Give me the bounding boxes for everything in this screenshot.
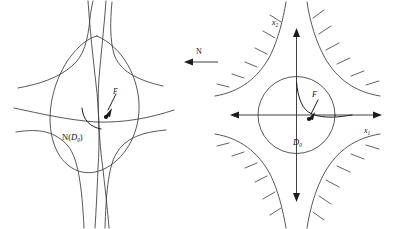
hatch-ul-3 (255, 48, 267, 54)
hyperbola-upper-right (307, 2, 380, 96)
hatch-ur-1 (313, 10, 324, 18)
axis-label-x2-sub: 2 (276, 22, 279, 28)
axis-x1-arrow-right (373, 112, 382, 119)
hatch-ur-6 (366, 81, 379, 85)
branch-lower-right (105, 130, 166, 228)
axis-label-x1-sub: 1 (368, 130, 371, 136)
hatch-ul-5 (232, 74, 244, 78)
hyperbola-lower-left (215, 134, 286, 228)
hatch-ur-3 (326, 43, 339, 50)
map-arrow-group: N (184, 47, 218, 66)
right-label-subscript: 0 (299, 142, 302, 148)
left-through-strands (14, 1, 174, 228)
diagram-svg: N(D0) F N (0, 0, 397, 229)
hatch-lr-4 (326, 180, 339, 187)
hatch-ll-1 (217, 143, 229, 146)
strand-vertical (88, 1, 99, 228)
hatch-ur-2 (319, 26, 331, 34)
hatch-lr-5 (319, 196, 331, 204)
right-F-arc (297, 82, 353, 117)
left-label-N-D0: N(D0) (62, 132, 83, 143)
hatch-lr-1 (366, 145, 379, 149)
hyperbola-upper-left (215, 2, 286, 96)
figure-canvas: N(D0) F N (0, 0, 397, 229)
hatch-ll-3 (245, 163, 257, 168)
hatch-ll-5 (263, 192, 275, 199)
right-axes (230, 28, 382, 202)
F-pointer (108, 94, 116, 110)
hatch-ll-4 (255, 176, 267, 182)
map-arrow-label: N (196, 47, 202, 56)
hatch-ul-2 (263, 31, 275, 38)
map-arrow-head (184, 59, 193, 66)
right-F-pointer (311, 100, 318, 114)
hatch-ur-5 (351, 71, 364, 76)
axis-label-x1: x1 (363, 126, 371, 136)
left-label-paren-close: ) (80, 132, 83, 142)
right-label-D0: D0 (292, 137, 302, 148)
strand-horizontal (14, 108, 174, 122)
branch-upper-right (111, 2, 163, 86)
hatch-lr-2 (351, 154, 364, 159)
hatch-ul-4 (245, 62, 257, 67)
hatch-ur-4 (337, 58, 350, 64)
right-panel: F D0 x2 x1 (215, 2, 382, 228)
right-F-point (307, 117, 311, 121)
F-point (104, 115, 108, 119)
hyperbola-lower-right (307, 134, 380, 228)
hatch-ll-6 (270, 208, 281, 215)
left-lens-boundary (50, 36, 139, 173)
hatch-ul-6 (217, 84, 229, 87)
axis-x2-arrow-down (293, 193, 300, 202)
hatch-ll-2 (232, 152, 244, 156)
hatch-lr-3 (337, 166, 350, 172)
axis-x2-arrow-up (293, 28, 300, 37)
left-panel: N(D0) F (14, 1, 174, 228)
left-curve-label-F: F (112, 87, 118, 96)
lens-outline (50, 36, 139, 173)
axis-x1-arrow-left (230, 112, 239, 119)
hatch-lr-6 (313, 212, 324, 220)
right-curve-label-F: F (311, 90, 317, 99)
branch-lower-left (16, 131, 84, 228)
